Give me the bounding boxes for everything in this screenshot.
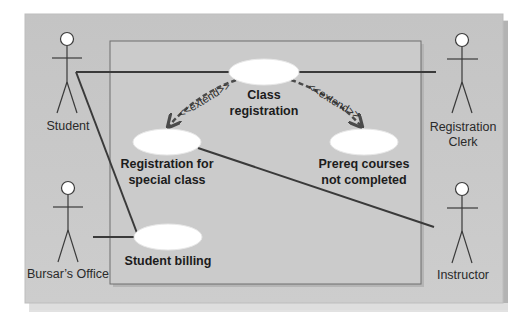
actor-label-instructor: Instructor [437, 268, 489, 282]
use-case-diagram: <<extend>> <<extend>> Class registration… [0, 0, 530, 325]
actor-head-icon [456, 183, 469, 196]
use-case-label-special-class-2: special class [128, 173, 205, 187]
actor-head-icon [62, 182, 75, 195]
actor-label-registration-clerk-2: Clerk [448, 135, 478, 149]
use-case-class-registration[interactable] [229, 59, 299, 85]
use-case-prereq-not-completed[interactable] [330, 129, 398, 155]
use-case-registration-special-class[interactable] [133, 129, 201, 155]
panel-shadow-bottom [30, 303, 508, 310]
use-case-label-prereq-1: Prereq courses [318, 157, 409, 171]
actor-head-icon [456, 34, 469, 47]
use-case-label-student-billing: Student billing [125, 254, 212, 268]
use-case-label-special-class-1: Registration for [120, 157, 213, 171]
use-case-label-class-registration-1: Class [247, 88, 280, 102]
use-case-student-billing[interactable] [134, 224, 202, 250]
actor-head-icon [61, 33, 74, 46]
use-case-label-class-registration-2: registration [230, 104, 299, 118]
use-case-label-prereq-2: not completed [321, 173, 406, 187]
actor-label-bursars-office: Bursar’s Office [27, 267, 109, 281]
panel-shadow-right [503, 21, 508, 310]
actor-label-student: Student [46, 119, 90, 133]
actor-label-registration-clerk-1: Registration [430, 120, 497, 134]
